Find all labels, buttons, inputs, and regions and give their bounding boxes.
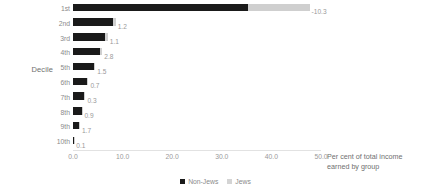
legend-label: Non-Jews xyxy=(188,178,218,185)
bar-jews xyxy=(87,78,88,86)
bar-value-label: 1.1 xyxy=(110,38,119,45)
bar-rows: 1st-10.32nd1.23rd1.14th2.85th1.56th0.77t… xyxy=(73,2,321,150)
bar-jews xyxy=(84,92,85,100)
bar-jews xyxy=(248,4,310,12)
y-axis-tick-label: 5th xyxy=(30,64,70,71)
legend-swatch-icon xyxy=(227,179,232,184)
y-axis-tick-label: 10th xyxy=(30,138,70,145)
bar-jews xyxy=(94,63,95,71)
y-axis-tick-label: 9th xyxy=(30,123,70,130)
x-axis-tick-label: 30.0 xyxy=(202,153,242,160)
bar-value-label: -10.3 xyxy=(312,8,327,15)
x-axis-tick-label: 40.0 xyxy=(251,153,291,160)
bar-non-jews xyxy=(73,18,113,26)
plot-area: 1st-10.32nd1.23rd1.14th2.85th1.56th0.77t… xyxy=(73,2,321,152)
bar-value-label: 0.1 xyxy=(76,142,85,149)
y-axis-tick-label: 6th xyxy=(30,79,70,86)
x-axis-title-line2: earned by group xyxy=(327,162,431,172)
y-axis-tick-label: 2nd xyxy=(30,20,70,27)
bar-jews xyxy=(113,18,116,26)
bar-row: 2nd1.2 xyxy=(73,17,321,32)
bar-row: 1st-10.3 xyxy=(73,2,321,17)
bar-row: 4th2.8 xyxy=(73,46,321,61)
x-axis-title: Per cent of total income earned by group xyxy=(327,152,431,172)
legend-label: Jews xyxy=(235,178,251,185)
chart-legend: Non-JewsJews xyxy=(0,175,431,187)
y-axis-tick-label: 8th xyxy=(30,109,70,116)
bar-row: 10th0.1 xyxy=(73,135,321,150)
x-axis-line xyxy=(73,150,321,151)
bar-value-label: 1.5 xyxy=(97,68,106,75)
bar-value-label: 1.7 xyxy=(82,127,91,134)
bar-non-jews xyxy=(73,63,94,71)
bar-row: 8th0.9 xyxy=(73,106,321,121)
bar-non-jews xyxy=(73,4,248,12)
bar-value-label: 1.2 xyxy=(118,23,127,30)
x-axis-title-line1: Per cent of total income xyxy=(327,152,431,162)
x-axis-tick-label: 20.0 xyxy=(152,153,192,160)
y-axis-tick-label: 4th xyxy=(30,49,70,56)
bar-value-label: 2.8 xyxy=(104,53,113,60)
bar-jews xyxy=(100,48,102,56)
bar-non-jews xyxy=(73,48,100,56)
bar-chart: Decile 1st-10.32nd1.23rd1.14th2.85th1.56… xyxy=(0,0,431,193)
bar-row: 6th0.7 xyxy=(73,76,321,91)
bar-row: 7th0.3 xyxy=(73,91,321,106)
y-axis-tick-label: 3rd xyxy=(30,35,70,42)
bar-non-jews xyxy=(73,78,87,86)
x-axis-tick-label: 0.0 xyxy=(53,153,93,160)
x-axis-tick-label: 10.0 xyxy=(103,153,143,160)
bar-row: 5th1.5 xyxy=(73,61,321,76)
bar-jews xyxy=(105,33,107,41)
legend-item[interactable]: Jews xyxy=(227,178,251,185)
y-axis-tick-label: 7th xyxy=(30,94,70,101)
legend-swatch-icon xyxy=(180,179,185,184)
bar-value-label: 0.3 xyxy=(87,97,96,104)
y-axis-tick-label: 1st xyxy=(30,5,70,12)
bar-non-jews xyxy=(73,33,105,41)
bar-non-jews xyxy=(73,92,84,100)
legend-item[interactable]: Non-Jews xyxy=(180,178,218,185)
bar-value-label: 0.9 xyxy=(84,112,93,119)
bar-row: 9th1.7 xyxy=(73,120,321,135)
bar-row: 3rd1.1 xyxy=(73,32,321,47)
bar-value-label: 0.7 xyxy=(90,82,99,89)
bar-non-jews xyxy=(73,107,82,115)
